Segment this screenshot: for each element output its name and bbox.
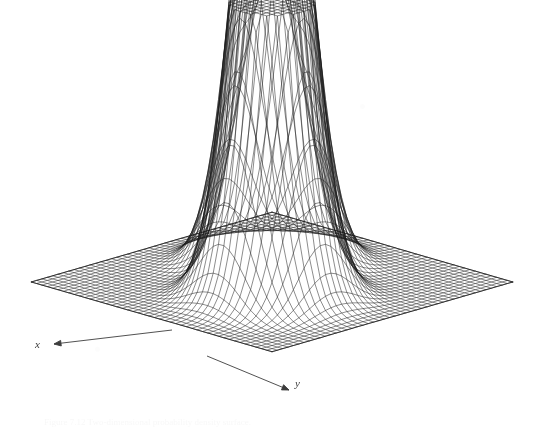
x-axis-label: x [35,338,40,350]
y-axis-label: y [295,377,300,389]
figure-caption: Figure 7.12 Two-dimensional probability … [44,417,504,427]
